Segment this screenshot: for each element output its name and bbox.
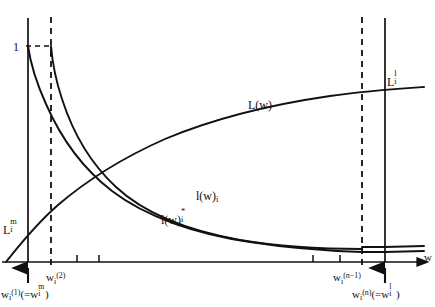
L-i-m-subscript: i — [10, 226, 12, 234]
l-of-w-i-subscript: i — [216, 194, 218, 204]
figure-container: 1 Lmi Lli L(w) l(w)i l(w)*i wi(2) wi(n−1… — [0, 0, 435, 307]
tick-label-w-i-2: wi(2) — [46, 272, 65, 285]
w-i-l-subscript: i — [389, 290, 391, 298]
tick-label-w-i-n-minus-1: wi(n−1) — [333, 272, 361, 285]
label-L-of-w: L(w) — [248, 99, 272, 111]
curve-l-of-w-i — [51, 46, 424, 249]
w-i-2-superscript: (2) — [56, 271, 65, 280]
x-axis-label: w — [424, 252, 432, 263]
tick-label-w-i-n: wi(n)(=wli) — [352, 287, 400, 302]
w-i-n-minus-1-superscript: (n−1) — [343, 271, 361, 280]
w-i-n-superscript: (n) — [362, 288, 371, 297]
label-L-i-m: Lmi — [3, 222, 18, 236]
w-i-1-equals-close: ) — [45, 288, 49, 300]
figure-plot — [0, 0, 435, 307]
l-of-w-i-star-subscript: i — [181, 216, 183, 224]
w-i-1-superscript: (1) — [11, 288, 20, 297]
w-i-n-equals-close: ) — [396, 288, 400, 300]
label-L-i-l: Lli — [387, 74, 402, 88]
w-i-n-equals-open: (=w — [371, 288, 389, 300]
y-axis-unit-label: 1 — [13, 41, 19, 53]
w-i-m-subscript: i — [38, 290, 40, 298]
L-i-l-subscript: i — [394, 78, 396, 86]
label-l-of-w-i: l(w)i — [196, 190, 218, 204]
w-i-1-equals-open: (=w — [20, 288, 38, 300]
curve-l-of-w-i-star — [28, 46, 424, 252]
label-l-of-w-i-star: l(w)*i — [161, 212, 188, 226]
tick-label-w-i-1: wi(1)(=wmi) — [1, 287, 49, 302]
